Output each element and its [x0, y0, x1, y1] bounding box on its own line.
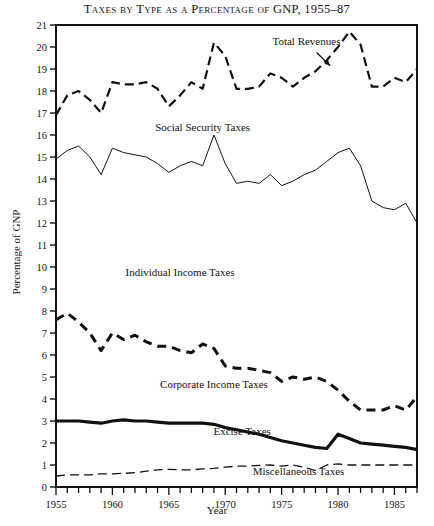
x-tick-label: 1970 — [215, 499, 236, 510]
series-annotation: Corporate Income Taxes — [160, 378, 268, 390]
x-tick-label: 1980 — [328, 499, 349, 510]
series-annotation: Individual Income Taxes — [126, 266, 235, 278]
y-tick-label: 4 — [42, 394, 48, 405]
y-tick-label: 6 — [42, 350, 47, 361]
x-tick-label: 1985 — [384, 499, 405, 510]
y-tick-label: 7 — [42, 328, 47, 339]
y-tick-label: 18 — [37, 86, 48, 97]
y-tick-label: 5 — [42, 372, 47, 383]
y-tick-label: 2 — [42, 438, 47, 449]
chart-plot-area: 0123456789101112131415161718192021195519… — [0, 0, 434, 526]
y-tick-label: 12 — [37, 218, 48, 229]
series-line — [56, 32, 417, 116]
plot-frame — [56, 25, 417, 487]
x-tick-label: 1965 — [158, 499, 179, 510]
y-tick-label: 13 — [37, 196, 48, 207]
series-line — [56, 464, 417, 476]
y-tick-label: 3 — [42, 416, 47, 427]
series-annotation: Total Revenues — [272, 35, 340, 47]
y-tick-label: 8 — [42, 306, 47, 317]
y-tick-label: 11 — [37, 240, 47, 251]
x-tick-label: 1975 — [271, 499, 292, 510]
y-tick-label: 19 — [37, 64, 48, 75]
y-tick-label: 21 — [37, 20, 48, 31]
series-line — [56, 135, 417, 223]
chart-root: Taxes by Type as a Percentage of GNP, 19… — [0, 0, 434, 526]
y-tick-label: 20 — [37, 42, 48, 53]
series-annotation: Miscellaneous Taxes — [253, 465, 345, 477]
y-tick-label: 17 — [37, 108, 48, 119]
y-tick-label: 15 — [37, 152, 48, 163]
y-tick-label: 9 — [42, 284, 47, 295]
x-tick-label: 1960 — [102, 499, 123, 510]
x-tick-label: 1955 — [46, 499, 67, 510]
y-tick-label: 14 — [37, 174, 48, 185]
y-tick-label: 10 — [37, 262, 48, 273]
series-annotation: Excise Taxes — [213, 425, 270, 437]
series-annotation: Social Security Taxes — [155, 121, 250, 133]
y-tick-label: 16 — [37, 130, 48, 141]
y-tick-label: 0 — [42, 482, 47, 493]
series-line — [56, 313, 417, 410]
y-tick-label: 1 — [42, 460, 47, 471]
